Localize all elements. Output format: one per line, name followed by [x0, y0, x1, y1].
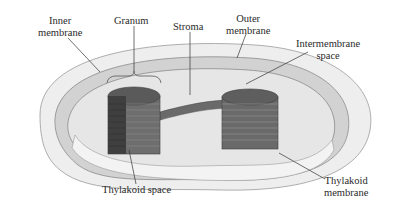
granum-left [108, 87, 160, 154]
label-inner-membrane: Inner membrane [38, 15, 82, 39]
label-outer-membrane: Outer membrane [226, 13, 270, 37]
label-thylakoid-membrane: Thylakoid membrane [324, 175, 368, 199]
label-intermembrane-space: Intermembrane space [296, 38, 360, 62]
granum-right [222, 89, 278, 149]
chloroplast-diagram: Inner membrane Granum Stroma Outer membr… [0, 0, 401, 212]
label-granum: Granum [114, 15, 148, 27]
label-thylakoid-space: Thylakoid space [102, 184, 171, 196]
label-stroma: Stroma [173, 21, 203, 33]
